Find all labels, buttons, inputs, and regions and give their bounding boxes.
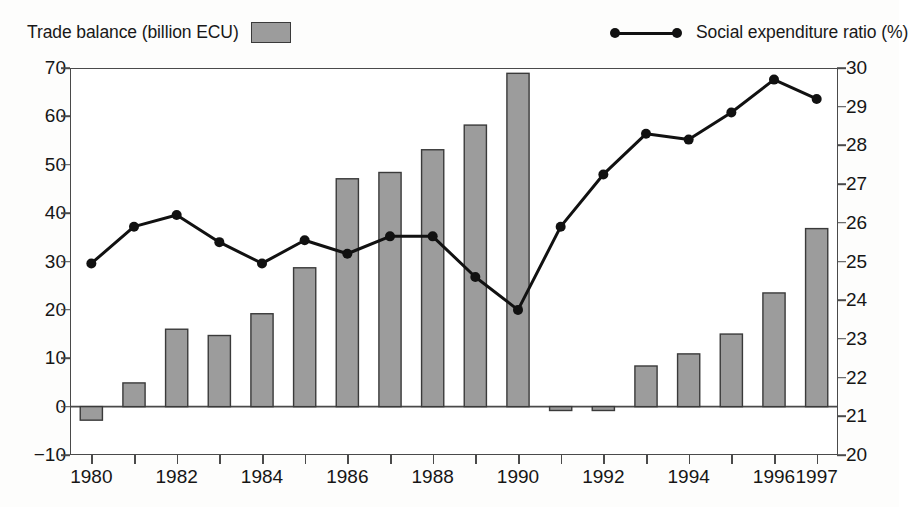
- bar-1988: [422, 150, 444, 407]
- bar-1992: [592, 407, 614, 411]
- y-left-tick-label-0: 0: [4, 396, 66, 418]
- line-point-1989: [470, 272, 480, 282]
- x-tick-label-1986: 1986: [326, 466, 368, 488]
- x-tick-label-1988: 1988: [412, 466, 454, 488]
- line-point-1983: [214, 237, 224, 247]
- y-right-tickmark: [837, 145, 846, 147]
- line-point-1996: [769, 75, 779, 85]
- y-left-tickmark: [61, 357, 70, 359]
- line-point-1990: [513, 305, 523, 315]
- y-right-tickmark: [837, 416, 846, 418]
- x-tickmark-1997: [817, 455, 819, 464]
- x-tickmark-1990: [518, 455, 520, 464]
- bar-1989: [464, 125, 486, 407]
- x-tickmark-1992: [603, 455, 605, 464]
- y-right-tick-label-27: 27: [846, 173, 896, 195]
- y-right-tickmark: [837, 338, 846, 340]
- bar-1980: [80, 407, 102, 421]
- y-right-tickmark: [837, 454, 846, 456]
- bar-1991: [550, 407, 572, 411]
- y-left-tick-label--10: −10: [4, 444, 66, 466]
- bar-1990: [507, 73, 529, 406]
- x-tickmark-1985: [305, 455, 307, 464]
- y-right-tick-label-23: 23: [846, 328, 896, 350]
- y-left-tick-label-30: 30: [4, 251, 66, 273]
- y-left-tick-label-60: 60: [4, 105, 66, 127]
- y-right-tick-label-30: 30: [846, 57, 896, 79]
- y-right-tick-label-22: 22: [846, 367, 896, 389]
- bar-1996: [763, 293, 785, 407]
- x-tickmark-1991: [561, 455, 563, 464]
- y-axis-left: −10010203040506070: [0, 0, 66, 507]
- x-tickmark-1986: [347, 455, 349, 464]
- y-right-tickmark: [837, 222, 846, 224]
- line-point-1993: [641, 129, 651, 139]
- y-left-tickmark: [61, 164, 70, 166]
- bar-1982: [166, 329, 188, 406]
- bar-1986: [336, 179, 358, 407]
- y-left-tickmark: [61, 212, 70, 214]
- y-right-tick-label-20: 20: [846, 444, 896, 466]
- y-right-tickmark: [837, 106, 846, 108]
- bar-1994: [678, 354, 700, 407]
- line-point-1997: [812, 94, 822, 104]
- y-right-tickmark: [837, 261, 846, 263]
- x-tickmark-1995: [731, 455, 733, 464]
- line-point-1985: [300, 235, 310, 245]
- y-right-tickmark: [837, 377, 846, 379]
- line-point-1984: [257, 258, 267, 268]
- bar-1993: [635, 366, 657, 407]
- y-left-tickmark: [61, 454, 70, 456]
- bar-swatch-icon: [251, 22, 291, 43]
- plot-canvas: [70, 68, 838, 455]
- bar-1984: [251, 314, 273, 407]
- line-with-dots-marker-icon: [610, 26, 682, 40]
- x-tickmark-1987: [390, 455, 392, 464]
- x-tick-label-1984: 1984: [241, 466, 283, 488]
- x-tick-label-1996: 1996: [753, 466, 795, 488]
- x-tick-label-1997: 1997: [796, 466, 838, 488]
- line-point-1986: [342, 249, 352, 259]
- line-point-1991: [556, 222, 566, 232]
- line-point-1994: [684, 135, 694, 145]
- bar-1983: [208, 336, 230, 407]
- x-tickmark-1983: [219, 455, 221, 464]
- bar-1985: [294, 268, 316, 407]
- y-right-tickmark: [837, 183, 846, 185]
- line-point-1987: [385, 231, 395, 241]
- y-left-tickmark: [61, 116, 70, 118]
- line-point-1982: [172, 210, 182, 220]
- x-tick-label-1980: 1980: [70, 466, 112, 488]
- chart-legend: Trade balance (billion ECU) Social expen…: [0, 0, 899, 58]
- x-tickmark-1980: [91, 455, 93, 464]
- y-left-tickmark: [61, 309, 70, 311]
- legend-entry-trade-balance: Trade balance (billion ECU): [27, 22, 291, 43]
- x-tickmark-1984: [262, 455, 264, 464]
- line-point-1981: [129, 222, 139, 232]
- bar-1995: [720, 334, 742, 407]
- y-left-tick-label-50: 50: [4, 154, 66, 176]
- y-right-tick-label-24: 24: [846, 289, 896, 311]
- bar-1997: [806, 229, 828, 407]
- x-tick-label-1990: 1990: [497, 466, 539, 488]
- x-tick-label-1992: 1992: [582, 466, 624, 488]
- x-tickmark-1981: [134, 455, 136, 464]
- y-left-tick-label-40: 40: [4, 202, 66, 224]
- y-axis-right: 2021222324252627282930: [846, 0, 899, 507]
- line-point-1995: [726, 108, 736, 118]
- line-series-social-expenditure: [86, 75, 821, 315]
- x-tickmark-1994: [689, 455, 691, 464]
- y-right-tick-label-29: 29: [846, 96, 896, 118]
- y-left-tick-label-20: 20: [4, 299, 66, 321]
- x-tickmark-1989: [475, 455, 477, 464]
- bar-1987: [379, 172, 401, 406]
- y-left-tickmark: [61, 261, 70, 263]
- y-right-tickmark: [837, 67, 846, 69]
- line-point-1992: [598, 169, 608, 179]
- y-right-tick-label-28: 28: [846, 134, 896, 156]
- y-left-tick-label-10: 10: [4, 347, 66, 369]
- bar-series-trade-balance: [80, 73, 828, 420]
- x-tickmark-1996: [774, 455, 776, 464]
- y-left-tickmark: [61, 67, 70, 69]
